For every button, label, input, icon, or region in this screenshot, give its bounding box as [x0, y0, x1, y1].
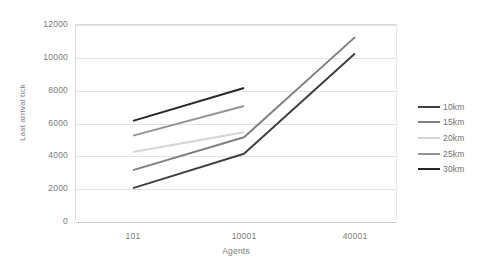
x-tick-label: 101: [126, 231, 141, 241]
x-axis-title: Agents: [222, 246, 250, 256]
y-tick-label: 2000: [6, 183, 68, 193]
gridline: [76, 189, 396, 190]
legend-item-10km: 10km: [418, 99, 490, 115]
legend-label: 30km: [443, 164, 465, 174]
legend-label: 15km: [443, 117, 465, 127]
legend-item-20km: 20km: [418, 130, 490, 146]
chart-legend: 10km15km20km25km30km: [418, 99, 490, 177]
legend-item-25km: 25km: [418, 146, 490, 162]
legend-swatch-icon: [418, 121, 440, 123]
legend-label: 20km: [443, 133, 465, 143]
y-tick-label: 6000: [6, 118, 68, 128]
legend-item-15km: 15km: [418, 115, 490, 131]
y-tick-label: 12000: [6, 19, 68, 29]
plot-area: [75, 24, 397, 221]
gridline: [76, 58, 396, 59]
y-axis-ticks: 020004000600080001000012000: [0, 0, 68, 268]
legend-label: 10km: [443, 102, 465, 112]
y-tick-label: 0: [6, 216, 68, 226]
legend-swatch-icon: [418, 168, 440, 170]
legend-swatch-icon: [418, 153, 440, 155]
y-tick-label: 4000: [6, 150, 68, 160]
gridline: [76, 25, 396, 26]
legend-item-30km: 30km: [418, 161, 490, 177]
y-axis-title: Last arrival tick: [18, 84, 27, 141]
line-chart: 020004000600080001000012000 Last arrival…: [0, 0, 495, 268]
legend-swatch-icon: [418, 106, 440, 108]
gridline: [76, 156, 396, 157]
gridline: [76, 91, 396, 92]
x-tick-label: 10001: [232, 231, 257, 241]
y-tick-label: 8000: [6, 85, 68, 95]
x-axis-line: [76, 222, 396, 223]
x-tick-label: 40001: [343, 231, 368, 241]
legend-swatch-icon: [418, 137, 440, 139]
legend-label: 25km: [443, 149, 465, 159]
gridline: [76, 124, 396, 125]
y-tick-label: 10000: [6, 52, 68, 62]
